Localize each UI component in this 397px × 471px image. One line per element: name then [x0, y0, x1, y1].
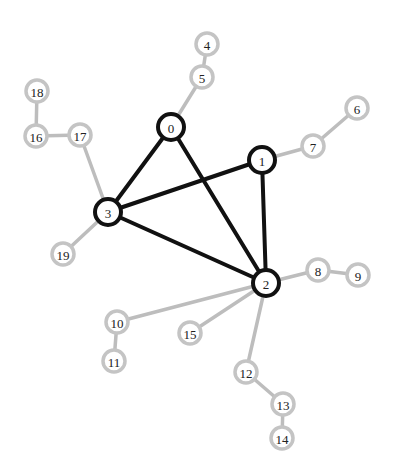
node-18[interactable]: 18	[26, 80, 48, 102]
node-5[interactable]: 5	[191, 66, 213, 88]
node-14[interactable]: 14	[271, 427, 293, 449]
node-1[interactable]: 1	[249, 147, 275, 173]
node-16[interactable]: 16	[25, 125, 47, 147]
node-17[interactable]: 17	[69, 124, 91, 146]
node-label: 5	[199, 71, 206, 86]
node-8[interactable]: 8	[307, 259, 329, 281]
node-4[interactable]: 4	[196, 33, 218, 55]
core-edges	[108, 127, 266, 283]
node-13[interactable]: 13	[272, 393, 294, 415]
node-10[interactable]: 10	[106, 311, 128, 333]
node-label: 15	[184, 327, 197, 342]
leaf-edges	[36, 44, 358, 438]
node-label: 19	[57, 248, 70, 263]
node-label: 9	[355, 269, 362, 284]
node-label: 7	[310, 140, 317, 155]
node-label: 1	[259, 154, 266, 169]
edge-2-10	[117, 283, 266, 322]
node-label: 12	[240, 366, 253, 381]
edge-1-2	[262, 160, 266, 283]
node-label: 0	[168, 121, 175, 136]
node-label: 3	[105, 206, 112, 221]
node-label: 2	[263, 277, 270, 292]
node-label: 16	[30, 130, 44, 145]
node-label: 18	[31, 85, 44, 100]
node-label: 6	[354, 102, 361, 117]
node-6[interactable]: 6	[346, 97, 368, 119]
node-15[interactable]: 15	[179, 322, 201, 344]
node-7[interactable]: 7	[302, 135, 324, 157]
node-9[interactable]: 9	[347, 264, 369, 286]
node-12[interactable]: 12	[235, 361, 257, 383]
node-label: 17	[74, 129, 88, 144]
node-label: 14	[276, 432, 290, 447]
node-19[interactable]: 19	[52, 243, 74, 265]
node-11[interactable]: 11	[103, 350, 125, 372]
node-label: 10	[111, 316, 124, 331]
node-label: 4	[204, 38, 211, 53]
node-label: 13	[277, 398, 290, 413]
node-3[interactable]: 3	[95, 199, 121, 225]
node-2[interactable]: 2	[253, 270, 279, 296]
edge-0-3	[108, 127, 171, 212]
network-graph: 012345678910111213141516171819	[0, 0, 397, 471]
node-label: 8	[315, 264, 322, 279]
node-label: 11	[108, 355, 121, 370]
edge-3-1	[108, 160, 262, 212]
node-0[interactable]: 0	[158, 114, 184, 140]
